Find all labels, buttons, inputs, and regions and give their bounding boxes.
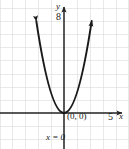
axis-of-symmetry-label: x = 0 <box>46 133 65 142</box>
y-axis-label: y <box>56 2 60 11</box>
parabola-figure: y 8 x 5 (0, 0) x = 0 <box>0 0 129 149</box>
vertex-label: (0, 0) <box>67 112 87 121</box>
plot-canvas <box>0 0 129 149</box>
x-axis-label: x <box>119 112 123 121</box>
vertex-point <box>63 112 65 114</box>
y-axis-tick-label: 8 <box>56 12 61 22</box>
x-axis-tick-label: 5 <box>108 112 113 122</box>
